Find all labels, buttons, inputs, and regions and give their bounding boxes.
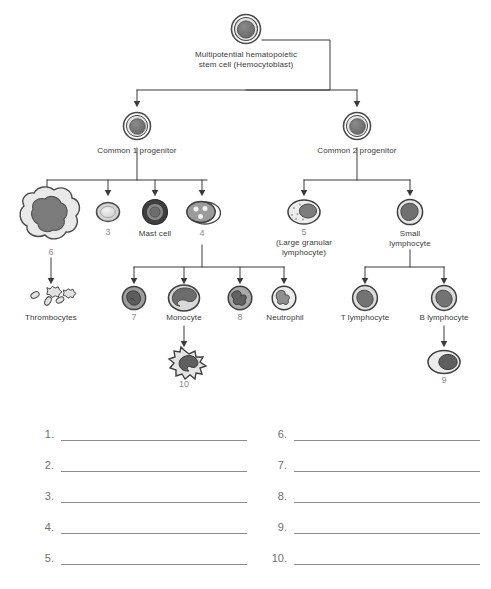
answer-number: 4. (32, 521, 61, 534)
plasma-cell-number: 9 (424, 375, 464, 385)
macrophage-number: 10 (164, 379, 204, 389)
plasma-cell-icon (428, 351, 460, 374)
answer-row[interactable]: 10. (265, 534, 480, 565)
monocyte-icon (169, 285, 200, 311)
mast-cell-icon (143, 200, 168, 225)
answer-line[interactable] (61, 460, 247, 472)
answer-column-left: 1. 2. 3. 4. 5. (32, 410, 247, 565)
answer-row[interactable]: 2. (32, 441, 247, 472)
large-granular-lymphocyte-icon (288, 200, 320, 224)
answer-row[interactable]: 1. (32, 410, 247, 441)
stem-cell-label: Multipotential hematopoietic stem cell (… (171, 50, 321, 69)
megakaryocyte-number: 6 (31, 247, 71, 257)
answer-number: 5. (32, 552, 61, 565)
answer-blanks: 1. 2. 3. 4. 5. 6. 7. 8. (0, 410, 491, 589)
answer-line[interactable] (61, 491, 247, 503)
neutrophil-label: Neutrophil (255, 313, 315, 323)
common2-progenitor-label: Common 2 progenitor (297, 146, 417, 156)
answer-number: 6. (265, 428, 294, 441)
answer-row[interactable]: 6. (265, 410, 480, 441)
progenitor-cell-icon-1 (124, 113, 151, 140)
macrophage-icon (169, 347, 206, 379)
erythrocyte-icon (97, 203, 120, 222)
answer-row[interactable]: 5. (32, 534, 247, 565)
common1-progenitor-label: Common 1 progenitor (77, 146, 197, 156)
answer-line[interactable] (61, 553, 247, 565)
thrombocytes-label: Thrombocytes (16, 313, 86, 323)
neutrophil-icon (272, 286, 296, 310)
small-lymphocyte-label: Small lymphocyte (375, 229, 445, 248)
myeloblast-icon (187, 202, 221, 224)
large-granular-lymphocyte-number: 5 (284, 227, 324, 237)
answer-line[interactable] (294, 553, 480, 565)
answer-line[interactable] (61, 429, 247, 441)
progenitor-cell-icon-2 (344, 113, 371, 140)
b-lymphocyte-label: B lymphocyte (409, 313, 479, 323)
answer-number: 7. (265, 459, 294, 472)
answer-number: 9. (265, 521, 294, 534)
monocyte-label: Monocyte (154, 313, 214, 323)
answer-row[interactable]: 4. (32, 503, 247, 534)
t-lymphocyte-icon (353, 286, 378, 311)
t-lymphocyte-label: T lymphocyte (330, 313, 400, 323)
answer-row[interactable]: 3. (32, 472, 247, 503)
answer-line[interactable] (61, 522, 247, 534)
answer-line[interactable] (294, 460, 480, 472)
answer-number: 8. (265, 490, 294, 503)
answer-row[interactable]: 9. (265, 503, 480, 534)
answer-row[interactable]: 7. (265, 441, 480, 472)
answer-line[interactable] (294, 429, 480, 441)
hematopoiesis-diagram: Multipotential hematopoietic stem cell (… (0, 0, 491, 410)
answer-column-right: 6. 7. 8. 9. 10. (265, 410, 480, 565)
stem-cell-icon (232, 15, 261, 44)
b-lymphocyte-icon (432, 286, 457, 311)
answer-row[interactable]: 8. (265, 472, 480, 503)
megakaryocyte-icon (20, 187, 79, 239)
eosinophil-icon (228, 286, 252, 310)
answer-number: 2. (32, 459, 61, 472)
answer-number: 1. (32, 428, 61, 441)
thrombocytes-icon (30, 286, 76, 306)
eosinophil-number: 8 (220, 312, 260, 322)
answer-number: 3. (32, 490, 61, 503)
answer-line[interactable] (294, 522, 480, 534)
myeloblast-number: 4 (182, 228, 222, 238)
answer-line[interactable] (294, 491, 480, 503)
small-lymphocyte-icon (397, 199, 422, 224)
basophil-number: 7 (114, 312, 154, 322)
large-granular-lymphocyte-label: (Large granular lymphocyte) (259, 238, 349, 257)
mast-cell-label: Mast cell (120, 229, 190, 239)
answer-number: 10. (265, 552, 294, 565)
basophil-icon (122, 286, 145, 309)
